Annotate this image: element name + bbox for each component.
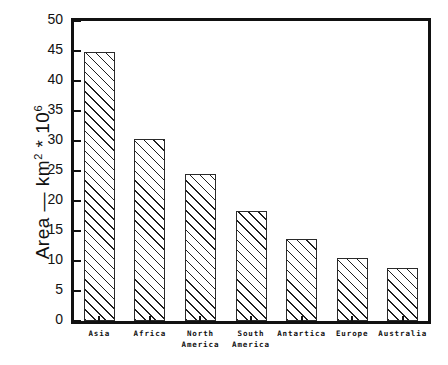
x-axis-tick-mark <box>402 316 404 322</box>
x-axis-tick-label-line: North <box>181 328 219 339</box>
bar-series <box>74 21 428 321</box>
bar-chart: Area — km2 * 106 05101520253035404550 As… <box>0 0 448 365</box>
y-axis-title-exponent-1: 2 <box>32 153 44 160</box>
y-axis-tick-label: 20 <box>47 191 63 207</box>
x-axis-tick-label-line: Europe <box>336 328 369 339</box>
y-axis-tick-label: 0 <box>55 311 63 327</box>
y-axis-tick-label: 40 <box>47 71 63 87</box>
y-axis-tick-label: 35 <box>47 101 63 117</box>
plot-frame: 05101520253035404550 <box>71 18 431 324</box>
y-axis-tick-label: 10 <box>47 251 63 267</box>
y-axis-title-exponent-2: 6 <box>32 105 44 112</box>
x-axis-tick-label: Africa <box>134 328 167 339</box>
x-axis-tick-label-line: America <box>181 339 219 350</box>
x-axis-tick-mark <box>351 316 353 322</box>
y-axis-tick-label: 25 <box>47 161 63 177</box>
x-axis-tick-label: SouthAmerica <box>232 328 270 350</box>
x-axis-tick-mark <box>98 316 100 322</box>
bar <box>185 174 216 321</box>
x-axis-tick-label-line: America <box>232 339 270 350</box>
x-axis-labels: AsiaAfricaNorthAmericaSouthAmericaAntart… <box>71 328 431 364</box>
y-axis-tick-label: 15 <box>47 221 63 237</box>
x-axis-tick-mark <box>199 316 201 322</box>
y-axis-tick-label: 30 <box>47 131 63 147</box>
y-axis-tick-label: 5 <box>55 281 63 297</box>
plot-area: 05101520253035404550 <box>74 21 428 321</box>
x-axis-tick-label: Antartica <box>277 328 326 339</box>
bar <box>286 239 317 321</box>
bar <box>84 52 115 321</box>
x-axis-tick-label-line: Australia <box>378 328 427 339</box>
bar <box>387 268 418 321</box>
x-axis-tick-label-line: South <box>232 328 270 339</box>
x-axis-tick-mark <box>301 316 303 322</box>
bar <box>236 211 267 321</box>
x-axis-tick-mark <box>250 316 252 322</box>
x-axis-tick-label-line: Africa <box>134 328 167 339</box>
x-axis-tick-label: NorthAmerica <box>181 328 219 350</box>
x-axis-tick-label: Australia <box>378 328 427 339</box>
x-axis-tick-mark <box>149 316 151 322</box>
bar <box>134 139 165 321</box>
y-axis-tick-label: 45 <box>47 41 63 57</box>
bar <box>337 258 368 321</box>
x-axis-tick-label-line: Asia <box>88 328 110 339</box>
x-axis-tick-label-line: Antartica <box>277 328 326 339</box>
y-axis-tick-label: 50 <box>47 11 63 27</box>
x-axis-tick-label: Asia <box>88 328 110 339</box>
x-axis-tick-label: Europe <box>336 328 369 339</box>
